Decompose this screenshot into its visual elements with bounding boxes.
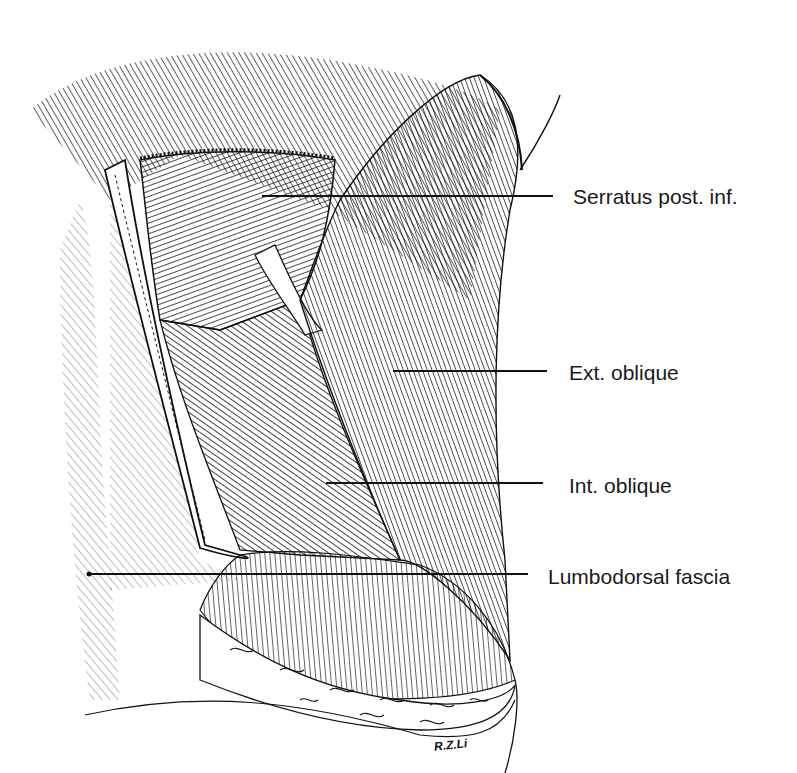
label-serratus-post-inf: Serratus post. inf. xyxy=(573,186,738,207)
label-ext-oblique: Ext. oblique xyxy=(569,362,679,383)
label-int-oblique: Int. oblique xyxy=(569,475,672,496)
anatomical-illustration xyxy=(0,0,797,773)
label-lumbodorsal-fascia: Lumbodorsal fascia xyxy=(548,566,730,587)
